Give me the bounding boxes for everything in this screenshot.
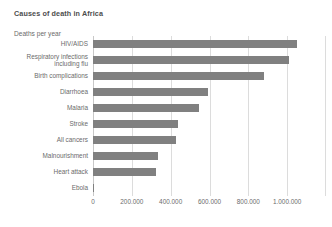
category-label: Respiratory infections including flu [27, 53, 88, 67]
bar-series [93, 36, 326, 196]
bar-row [93, 152, 326, 161]
tick-label: 600.000 [198, 198, 221, 205]
category-label: Birth complications [34, 72, 88, 79]
tick-label: 200.000 [120, 198, 143, 205]
category-label: HIV/AIDS [61, 40, 88, 47]
bar [93, 88, 208, 97]
bar [93, 184, 94, 193]
chart-container: Causes of death in Africa Deaths per yea… [0, 0, 332, 227]
value-axis-tick-labels: 0200.000400.000600.000800.0001.000.000 [0, 198, 332, 212]
bar-row [93, 104, 326, 113]
category-label: All cancers [57, 136, 88, 143]
bar [93, 104, 199, 113]
bar [93, 136, 176, 145]
category-label: Ebola [72, 184, 88, 191]
bar [93, 72, 264, 81]
tick-label: 1.000.000 [273, 198, 301, 205]
bar [93, 168, 156, 177]
category-label: Stroke [70, 120, 88, 127]
tick-label: 800.000 [237, 198, 260, 205]
plot-area [93, 36, 326, 196]
tick-label: 0 [91, 198, 95, 205]
category-label: Malnourishment [43, 152, 88, 159]
bar-row [93, 40, 326, 49]
bar-row [93, 136, 326, 145]
bar-row [93, 120, 326, 129]
bar-row [93, 184, 326, 193]
bar-row [93, 56, 326, 65]
bar-row [93, 72, 326, 81]
category-label: Malaria [67, 104, 88, 111]
bar [93, 56, 289, 65]
bar-row [93, 168, 326, 177]
category-label: Heart attack [54, 168, 88, 175]
bar [93, 40, 297, 49]
bar [93, 120, 178, 129]
tick-label: 400.000 [159, 198, 182, 205]
category-axis-labels: HIV/AIDSRespiratory infections including… [0, 36, 91, 196]
category-label: Diarrhoea [60, 88, 88, 95]
bar-row [93, 88, 326, 97]
bar [93, 152, 158, 161]
chart-title: Causes of death in Africa [14, 9, 103, 18]
